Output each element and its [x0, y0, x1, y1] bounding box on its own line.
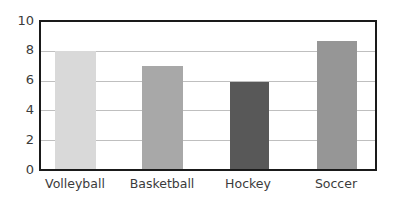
x-tick-label-volleyball: Volleyball [45, 177, 105, 191]
y-tick-label-8: 8 [8, 43, 34, 56]
y-tick-label-0: 0 [8, 163, 34, 176]
y-tick-label-4: 4 [8, 103, 34, 116]
plot-area [39, 20, 377, 171]
bar-hockey [230, 82, 269, 169]
x-tick-label-hockey: Hockey [225, 177, 271, 191]
x-tick-label-basketball: Basketball [130, 177, 195, 191]
x-tick-label-soccer: Soccer [315, 177, 357, 191]
y-tick-label-6: 6 [8, 73, 34, 86]
y-tick-label-10: 10 [8, 14, 34, 27]
bar-basketball [142, 66, 183, 169]
y-tick-label-2: 2 [8, 133, 34, 146]
bar-chart: 10 8 6 4 2 0 Volleyball Basketball Hocke… [0, 0, 395, 208]
bar-volleyball [55, 51, 96, 169]
bar-soccer [317, 41, 357, 169]
x-axis: Volleyball Basketball Hockey Soccer [39, 177, 377, 197]
y-axis: 10 8 6 4 2 0 [8, 0, 34, 208]
